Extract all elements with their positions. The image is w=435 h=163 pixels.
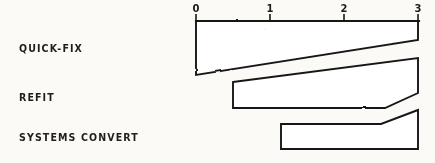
- chart-canvas: 0 1 2 3 QUICK-FIX REFIT SYSTEMS CONVERT: [0, 0, 435, 163]
- hand-drawn-ink-group: [196, 14, 419, 149]
- plot-area: [0, 0, 435, 163]
- bar-systems-convert[interactable]: [281, 110, 418, 149]
